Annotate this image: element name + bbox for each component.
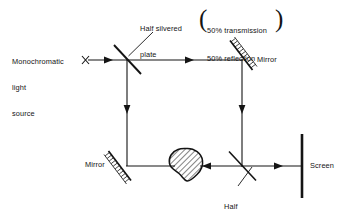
beam-top-horizontal-arrowhead (185, 57, 194, 64)
source-label: Monochromatic light source (12, 41, 64, 136)
screen-label: Screen (310, 162, 334, 171)
source-label-line1: Monochromatic (12, 58, 64, 67)
source-label-line3: source (12, 110, 64, 119)
transmission-note-line: 50% transmission (207, 26, 267, 35)
half-silvered-plate-top-label-line2: plate (140, 51, 182, 60)
transmission-reflection-note: 50% transmission 50% reflection (207, 8, 267, 82)
specimen-blob (169, 148, 202, 181)
half-silvered-plate-bottom-label: Half silvered plate (224, 186, 250, 215)
beam-splitter-to-screen-arrowhead (274, 163, 283, 170)
beam-left-vertical-arrowhead (124, 105, 131, 114)
half-silvered-plate-top-label-line1: Half silvered (140, 25, 182, 34)
mirror-bottom-left-label: Mirror (85, 161, 105, 170)
monochromatic-light-source-marker (82, 56, 89, 64)
note-paren-close: ) (275, 6, 283, 31)
beam-right-vertical-arrowhead (239, 105, 246, 114)
mach-zehnder-interferometer-figure: Monochromatic light source Half silvered… (0, 0, 357, 215)
source-label-line2: light (12, 84, 64, 93)
half-silvered-plate-bottom-line1: Half (224, 203, 250, 212)
note-paren-open: ( (199, 6, 207, 31)
half-silvered-plate-top-label: Half silvered plate (140, 8, 182, 77)
beam-source-to-splitter-arrowhead (104, 57, 113, 64)
mirror-top-right-label: Mirror (257, 56, 277, 65)
